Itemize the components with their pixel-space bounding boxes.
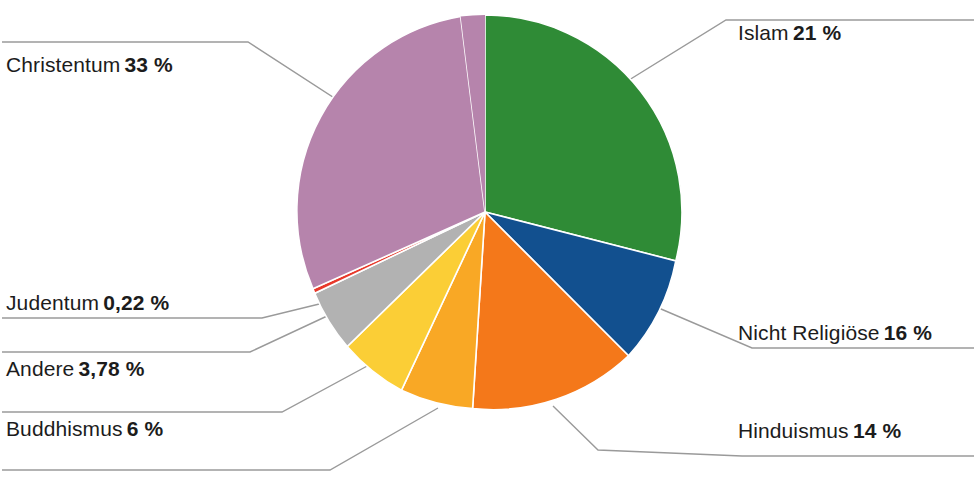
label-judentum-name: Judentum [6,291,99,314]
label-hinduismus-name: Hinduismus [738,419,849,442]
label-islam-value: 21 % [793,21,841,44]
label-buddhismus-value: 6 % [127,417,164,440]
pie-slices [297,15,682,410]
label-hinduismus: Hinduismus 14 % [738,420,901,441]
label-judentum: Judentum 0,22 % [6,292,169,313]
label-buddhismus: Buddhismus 6 % [6,418,163,439]
label-andere: Andere 3,78 % [6,358,145,379]
label-christentum-name: Christentum [6,53,120,76]
label-hinduismus-value: 14 % [853,419,901,442]
label-judentum-value: 0,22 % [103,291,169,314]
label-islam-name: Islam [738,21,789,44]
label-andere-value: 3,78 % [79,357,145,380]
label-nicht-religioese-name: Nicht Religiöse [738,321,880,344]
leader-line-andere [2,310,340,352]
label-nicht-religioese: Nicht Religiöse 16 % [738,322,932,343]
pie-chart-figure: Islam 21 % Christentum 33 % Nicht Religi… [0,0,976,481]
label-andere-name: Andere [6,357,74,380]
label-buddhismus-name: Buddhismus [6,417,123,440]
label-christentum: Christentum 33 % [6,54,173,75]
label-christentum-value: 33 % [125,53,173,76]
label-islam: Islam 21 % [738,22,841,43]
label-nicht-religioese-value: 16 % [884,321,932,344]
